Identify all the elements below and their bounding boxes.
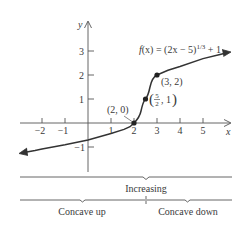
y-tick-label: 3 [79,46,84,57]
x-tick-label: 4 [178,125,183,136]
curve-arrow-right [222,50,231,57]
x-tick-label: 5 [201,125,206,136]
point-3-2 [154,72,159,77]
x-axis-label: x [225,126,231,137]
point-label-3-2: (3, 2) [161,76,183,88]
y-tick-label: 2 [79,70,84,81]
y-tick-label: 1 [79,94,84,105]
function-graph: x −2 −1 1 2 3 4 5 y [0,0,248,246]
increasing-bracket: Increasing [20,177,232,194]
svg-text:(: ( [149,91,154,108]
svg-text:): ) [172,91,177,108]
y-tick-label: −1 [74,142,85,153]
y-axis: y 1 2 3 −1 [74,19,94,172]
increasing-label: Increasing [125,183,167,194]
x-tick-label: 3 [155,125,160,136]
concavity-brackets: Concave up Concave down [20,196,232,217]
point-label-2-0: (2, 0) [107,104,129,116]
svg-text:5: 5 [155,92,159,100]
x-tick-label: 2 [132,125,137,136]
point-5-2-1 [143,96,148,101]
svg-text:, 1: , 1 [161,94,171,105]
x-axis: x −2 −1 1 2 3 4 5 [20,118,231,137]
concave-down-label: Concave down [158,206,218,217]
x-tick-label: −1 [58,125,69,136]
svg-text:f(x) = (2x − 5)1/3 + 1: f(x) = (2x − 5)1/3 + 1 [139,43,221,56]
y-axis-label: y [77,19,83,30]
point-label-5-2-1: ( 5 2 , 1 ) [149,91,177,108]
curve-arrow-left [19,148,28,156]
x-tick-label: −2 [35,125,46,136]
function-curve [24,53,226,153]
leader-line [124,116,132,122]
function-label: f(x) = (2x − 5)1/3 + 1 [139,43,221,56]
svg-text:2: 2 [155,100,159,108]
point-2-0 [131,120,136,125]
concave-up-label: Concave up [58,206,106,217]
